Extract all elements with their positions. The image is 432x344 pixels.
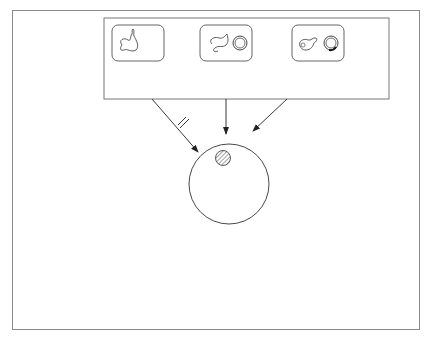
bacterium-no-plasmid-icon [112,25,164,61]
source-box [104,18,389,99]
bacterium-with-hybridplasmid-icon [292,25,344,61]
colonies-ampicillin [216,151,231,166]
transfer-arrow-right [253,99,287,131]
bacterium-with-plasmid-icon [200,25,252,61]
no-growth-arrow [152,99,198,152]
blocked-slash-2 [180,119,189,128]
diagram-graphics [0,0,432,344]
